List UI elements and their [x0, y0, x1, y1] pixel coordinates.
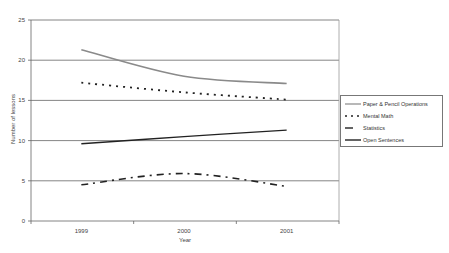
- legend-item-mental-math: Mental Math: [344, 110, 439, 122]
- x-tick-label: 2001: [280, 228, 294, 234]
- legend-label: Open Sentences: [363, 137, 404, 143]
- x-axis-title: Year: [179, 237, 191, 243]
- y-tick-label: 10: [18, 138, 25, 144]
- gridlines: [31, 20, 339, 181]
- y-tick-label: 5: [22, 178, 26, 184]
- x-tick-label: 1999: [75, 228, 89, 234]
- legend-item-statistics: Statistics: [344, 122, 439, 134]
- series-line: [81, 50, 286, 84]
- legend-item-open-sentences: Open Sentences: [344, 134, 439, 146]
- y-tick-label: 0: [22, 218, 26, 224]
- y-tick-label: 25: [18, 17, 25, 23]
- x-tick-label: 2000: [177, 228, 191, 234]
- y-tick-label: 15: [18, 97, 25, 103]
- series-line: [81, 130, 286, 144]
- y-axis-title: Number of lessons: [10, 94, 16, 144]
- series-line: [81, 174, 286, 187]
- legend-label: Mental Math: [363, 113, 393, 119]
- series-line: [81, 83, 286, 100]
- axes: [28, 20, 339, 224]
- solid-dark-line-icon: [344, 137, 362, 143]
- dash-dot-line-icon: [344, 125, 362, 131]
- legend-label: Statistics: [363, 125, 385, 131]
- legend-item-paper-pencil: Paper & Pencil Operations: [344, 98, 439, 110]
- axis-labels: 0510152025199920002001: [18, 17, 294, 234]
- dotted-line-icon: [344, 113, 362, 119]
- y-tick-label: 20: [18, 57, 25, 63]
- data-series: [81, 50, 286, 187]
- solid-gray-line-icon: [344, 101, 362, 107]
- legend-label: Paper & Pencil Operations: [363, 101, 428, 107]
- chart-legend: Paper & Pencil Operations Mental Math St…: [340, 95, 443, 147]
